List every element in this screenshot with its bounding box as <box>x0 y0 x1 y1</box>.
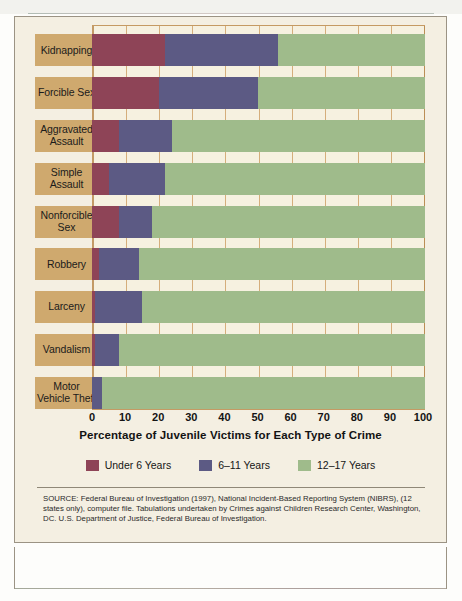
legend-label: 12–17 Years <box>317 459 375 471</box>
bar-segment <box>99 248 139 280</box>
bar-row <box>92 291 425 323</box>
scan-top-rule <box>28 13 434 14</box>
bar-segment <box>92 34 165 66</box>
legend-swatch <box>86 460 99 471</box>
bar-segment <box>92 377 102 409</box>
scan-bottom-rule <box>15 588 446 589</box>
bar-segment <box>278 34 425 66</box>
bar-rows <box>92 25 425 410</box>
bar-segment <box>92 163 109 195</box>
category-label-simple-assault: Simple Assault <box>35 163 98 195</box>
x-tick-90: 90 <box>384 411 396 423</box>
x-tick-70: 70 <box>318 411 330 423</box>
x-axis-title: Percentage of Juvenile Victims for Each … <box>15 429 446 441</box>
bar-segment <box>119 120 172 152</box>
legend-item: 12–17 Years <box>298 459 375 471</box>
x-tick-0: 0 <box>89 411 95 423</box>
bar-segment <box>92 206 119 238</box>
x-tick-100: 100 <box>414 411 432 423</box>
legend-swatch <box>298 460 311 471</box>
x-tick-50: 50 <box>251 411 263 423</box>
chart-figure: KidnappingForcible SexAggravated Assault… <box>14 16 447 543</box>
bar-segment <box>152 206 425 238</box>
category-label-robbery: Robbery <box>35 248 98 280</box>
bar-segment <box>159 77 259 109</box>
legend-item: Under 6 Years <box>86 459 172 471</box>
bar-segment <box>172 120 425 152</box>
bar-row <box>92 334 425 366</box>
bar-segment <box>119 334 425 366</box>
bar-segment <box>102 377 425 409</box>
bar-segment <box>95 334 118 366</box>
bar-row <box>92 206 425 238</box>
scan-top-margin <box>0 0 462 14</box>
bar-segment <box>92 248 99 280</box>
category-label-larceny: Larceny <box>35 291 98 323</box>
bar-row <box>92 163 425 195</box>
figure-source-note: SOURCE: Federal Bureau of Investigation … <box>43 494 425 525</box>
source-divider <box>37 487 425 488</box>
x-tick-20: 20 <box>152 411 164 423</box>
x-tick-30: 30 <box>185 411 197 423</box>
bar-row <box>92 377 425 409</box>
bar-segment <box>139 248 425 280</box>
bar-segment <box>92 77 159 109</box>
bar-segment <box>119 206 152 238</box>
bar-row <box>92 34 425 66</box>
bar-segment <box>258 77 425 109</box>
bar-segment <box>165 34 278 66</box>
category-label-aggravated-assault: Aggravated Assault <box>35 120 98 152</box>
x-tick-40: 40 <box>218 411 230 423</box>
bar-segment <box>92 120 119 152</box>
legend-item: 6–11 Years <box>199 459 270 471</box>
category-label-forcible-sex: Forcible Sex <box>35 77 98 109</box>
category-label-motor-vehicle-theft: Motor Vehicle Theft <box>35 377 98 409</box>
bottom-source-block: SOURCE: Finkelhor, David and Richard Orm… <box>14 547 447 589</box>
bar-row <box>92 77 425 109</box>
figure-page: KidnappingForcible SexAggravated Assault… <box>0 0 462 601</box>
bar-row <box>92 248 425 280</box>
x-axis-ticks: 0102030405060708090100 <box>92 411 425 427</box>
bar-segment <box>165 163 425 195</box>
bar-segment <box>95 291 142 323</box>
bar-segment <box>142 291 425 323</box>
legend-swatch <box>199 460 212 471</box>
bar-row <box>92 120 425 152</box>
plot-region <box>92 25 425 410</box>
chart-area: KidnappingForcible SexAggravated Assault… <box>15 17 448 419</box>
x-tick-60: 60 <box>284 411 296 423</box>
x-tick-10: 10 <box>119 411 131 423</box>
chart-legend: Under 6 Years6–11 Years12–17 Years <box>15 457 446 473</box>
category-label-kidnapping: Kidnapping <box>35 34 98 66</box>
category-label-vandalism: Vandalism <box>35 334 98 366</box>
legend-label: Under 6 Years <box>105 459 172 471</box>
bar-segment <box>109 163 166 195</box>
category-label-nonforcible-sex: Nonforcible Sex <box>35 206 98 238</box>
x-tick-80: 80 <box>351 411 363 423</box>
legend-label: 6–11 Years <box>218 459 270 471</box>
